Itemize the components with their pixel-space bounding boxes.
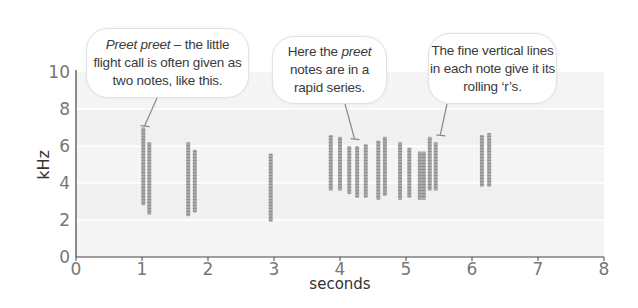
annotation-text: Here the [288,44,342,59]
note-bar [376,140,380,199]
annotation-text: notes are in a [288,61,372,79]
x-tick-label: 2 [203,259,214,279]
y-tick-label: 4 [59,173,70,193]
y-tick-label: 10 [48,62,70,82]
x-tick-label: 0 [71,259,82,279]
pointer-tick [436,135,445,136]
note-bar [338,137,342,191]
note-bar [193,150,197,213]
plot-band [76,220,604,257]
y-tick-label: 6 [59,136,70,156]
x-tick-label: 7 [533,259,544,279]
note-bar [355,146,359,198]
pointer-tick [351,139,360,140]
x-tick-label: 3 [269,259,280,279]
note-bar [383,137,387,196]
annotation-text: two notes, like this. [93,72,241,90]
y-tick-label: 2 [59,210,70,230]
annotation-text: The fine vertical lines [430,42,555,60]
note-bar [398,142,402,199]
y-tick-label: 0 [59,247,70,267]
annotation-bubble-rapid-series: Here the preet notes are in a rapid seri… [272,36,387,104]
x-axis-label: seconds [309,275,370,293]
x-tick-label: 8 [599,259,610,279]
annotation-text: flight call is often given as [93,54,241,72]
annotation-text: – the little [170,37,229,52]
note-bar [434,142,438,190]
annotation-bubble-vertical-lines: The fine vertical lines in each note giv… [428,33,557,104]
note-bar [364,144,368,198]
x-tick-label: 6 [467,259,478,279]
y-tick-label: 8 [59,99,70,119]
annotation-text: in each note give it its [430,60,555,78]
annotation-text: rapid series. [288,79,372,97]
pointer-tick [141,126,150,127]
note-bar [141,128,145,206]
note-bar [347,146,351,194]
note-bar [480,135,484,187]
note-bar [487,133,491,187]
note-bar [269,153,273,221]
note-bar [407,148,411,198]
x-tick-label: 1 [137,259,148,279]
annotation-text: rolling ‘r’s. [430,78,555,96]
note-bar [329,135,333,191]
y-axis-label: kHz [34,150,53,180]
annotation-italic: preet [341,44,371,59]
x-tick-label: 5 [401,259,412,279]
note-bar [418,152,422,200]
note-bar [428,137,432,191]
annotation-bubble-flight-call: Preet preet – the little flight call is … [86,28,249,98]
note-bar [186,142,190,216]
note-bar [147,142,151,214]
note-bar [422,152,426,200]
annotation-italic: Preet preet [106,37,171,52]
